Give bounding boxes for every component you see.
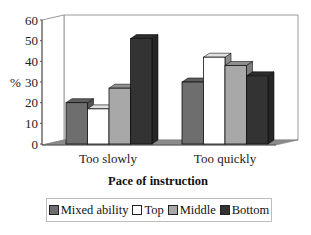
legend-item-top: Top xyxy=(132,203,163,218)
legend-item-mixed-ability: Mixed ability xyxy=(49,203,129,218)
y-tick-label: 0 xyxy=(32,137,39,152)
legend-label: Top xyxy=(144,203,163,218)
y-tick-label: 20 xyxy=(25,95,38,110)
legend-item-bottom: Bottom xyxy=(220,203,270,218)
y-axis-ticks: 0102030405060 xyxy=(25,13,42,152)
y-tick-label: 50 xyxy=(25,33,38,48)
category-labels: Too slowlyToo quickly xyxy=(79,151,257,166)
x-axis-title: Pace of instruction xyxy=(108,174,208,188)
legend-swatch-icon xyxy=(220,205,230,215)
bar-bottom xyxy=(247,72,275,144)
legend-swatch-icon xyxy=(132,205,142,215)
legend-label: Middle xyxy=(180,203,216,218)
y-tick-label: 40 xyxy=(25,54,38,69)
legend-item-middle: Middle xyxy=(168,203,216,218)
legend-label: Bottom xyxy=(232,203,270,218)
bar-bottom xyxy=(131,35,159,144)
y-axis-label: % xyxy=(10,75,21,90)
legend-swatch-icon xyxy=(168,205,178,215)
side-wall xyxy=(42,15,64,145)
y-tick-label: 60 xyxy=(25,13,38,28)
legend-swatch-icon xyxy=(49,205,59,215)
x-category-label: Too quickly xyxy=(194,151,257,166)
y-tick-label: 10 xyxy=(25,116,38,131)
y-tick-label: 30 xyxy=(25,75,38,90)
legend: Mixed ability Top Middle Bottom xyxy=(46,198,272,222)
x-category-label: Too slowly xyxy=(79,151,137,166)
legend-label: Mixed ability xyxy=(61,203,129,218)
